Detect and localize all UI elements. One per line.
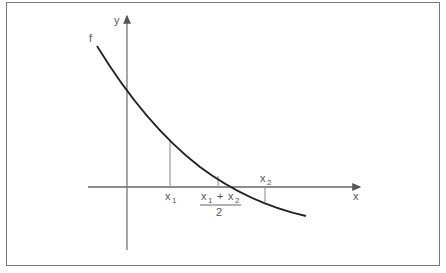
y-axis-label: y xyxy=(114,14,120,26)
svg-text:1: 1 xyxy=(208,196,213,205)
midpoint-fraction-label: x 1 + x 2 2 xyxy=(200,190,241,218)
function-label: f xyxy=(89,32,93,44)
svg-text:1: 1 xyxy=(172,196,177,205)
convex-function-diagram: f y x x 1 x 2 x 1 + x 2 2 xyxy=(0,0,446,273)
svg-text:x: x xyxy=(228,190,234,202)
x2-label: x 2 xyxy=(260,172,272,187)
x-axis-label: x xyxy=(353,190,359,202)
svg-text:+: + xyxy=(217,190,223,202)
svg-text:2: 2 xyxy=(216,206,222,218)
svg-text:2: 2 xyxy=(235,196,240,205)
svg-text:x: x xyxy=(260,172,266,184)
svg-text:x: x xyxy=(201,190,207,202)
svg-text:2: 2 xyxy=(267,178,272,187)
svg-text:x: x xyxy=(165,190,171,202)
x1-label: x 1 xyxy=(165,190,177,205)
